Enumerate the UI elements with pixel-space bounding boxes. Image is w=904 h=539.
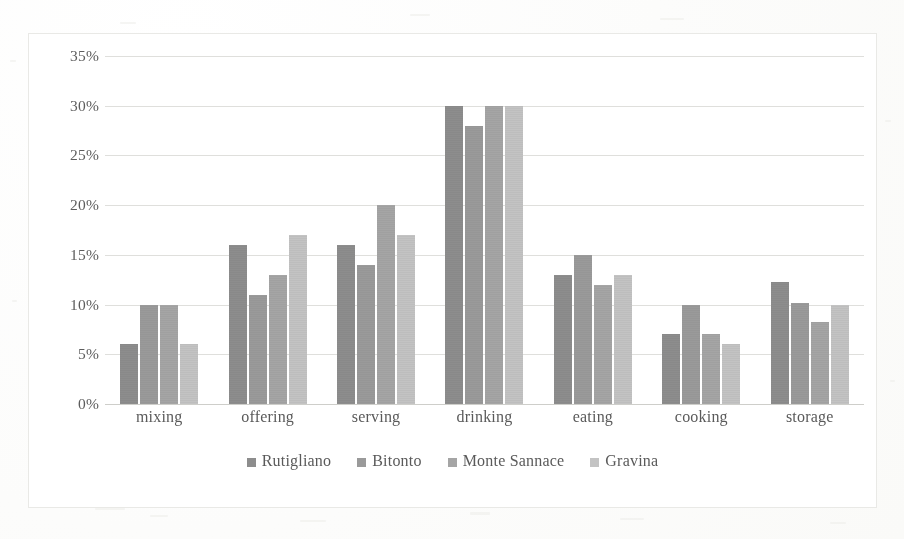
- legend-item[interactable]: Gravina: [590, 452, 658, 470]
- bar-group: [430, 56, 538, 404]
- x-axis-label: storage: [756, 408, 864, 438]
- bar-group: [213, 56, 321, 404]
- chart-frame: 0%5%10%15%20%25%30%35% mixingofferingser…: [28, 33, 877, 508]
- bar[interactable]: [180, 344, 198, 404]
- bar[interactable]: [269, 275, 287, 404]
- bar-group: [322, 56, 430, 404]
- bar[interactable]: [160, 305, 178, 404]
- scan-artifact: [10, 60, 16, 62]
- x-axis-label: offering: [213, 408, 321, 438]
- y-axis: 0%5%10%15%20%25%30%35%: [37, 56, 99, 404]
- bar[interactable]: [722, 344, 740, 404]
- bar[interactable]: [377, 205, 395, 404]
- bar[interactable]: [574, 255, 592, 404]
- scan-artifact: [470, 512, 490, 515]
- scan-artifact: [830, 522, 846, 524]
- scan-artifact: [410, 14, 430, 16]
- bar-group: [756, 56, 864, 404]
- scan-artifact: [300, 520, 326, 522]
- bar[interactable]: [702, 334, 720, 404]
- legend-swatch-icon: [247, 458, 256, 467]
- bar[interactable]: [682, 305, 700, 404]
- scan-artifact: [890, 380, 895, 382]
- bar-group: [539, 56, 647, 404]
- legend-swatch-icon: [448, 458, 457, 467]
- chart-legend: RutiglianoBitontoMonte SannaceGravina: [29, 452, 876, 470]
- bar[interactable]: [289, 235, 307, 404]
- y-axis-tick: 5%: [78, 345, 99, 363]
- bar[interactable]: [249, 295, 267, 404]
- axis-baseline: [105, 404, 864, 405]
- bar[interactable]: [140, 305, 158, 404]
- scan-artifact: [12, 300, 17, 302]
- y-axis-tick: 35%: [70, 47, 99, 65]
- bar[interactable]: [397, 235, 415, 404]
- bar[interactable]: [505, 106, 523, 404]
- legend-swatch-icon: [357, 458, 366, 467]
- bar[interactable]: [120, 344, 138, 404]
- bar[interactable]: [445, 106, 463, 404]
- scan-artifact: [150, 515, 168, 517]
- bar[interactable]: [485, 106, 503, 404]
- bar[interactable]: [811, 322, 829, 404]
- scan-artifact: [120, 22, 136, 24]
- legend-item[interactable]: Bitonto: [357, 452, 421, 470]
- legend-label: Rutigliano: [262, 452, 332, 470]
- scan-artifact: [885, 120, 891, 122]
- bar[interactable]: [229, 245, 247, 404]
- bar[interactable]: [662, 334, 680, 404]
- legend-label: Monte Sannace: [463, 452, 565, 470]
- y-axis-tick: 0%: [78, 395, 99, 413]
- x-axis: mixingofferingservingdrinkingeatingcooki…: [105, 408, 864, 438]
- plot-area: [105, 56, 864, 404]
- bar-group: [647, 56, 755, 404]
- bar-groups: [105, 56, 864, 404]
- bar[interactable]: [791, 303, 809, 404]
- bar[interactable]: [614, 275, 632, 404]
- legend-item[interactable]: Rutigliano: [247, 452, 332, 470]
- legend-label: Gravina: [605, 452, 658, 470]
- bar[interactable]: [771, 282, 789, 404]
- x-axis-label: mixing: [105, 408, 213, 438]
- bar[interactable]: [357, 265, 375, 404]
- scan-artifact: [660, 18, 684, 20]
- scan-artifact: [95, 508, 125, 510]
- scan-artifact: [620, 518, 644, 520]
- y-axis-tick: 10%: [70, 296, 99, 314]
- x-axis-label: eating: [539, 408, 647, 438]
- y-axis-tick: 15%: [70, 246, 99, 264]
- plot-wrapper: 0%5%10%15%20%25%30%35% mixingofferingser…: [29, 34, 876, 507]
- legend-swatch-icon: [590, 458, 599, 467]
- bar[interactable]: [831, 305, 849, 404]
- legend-item[interactable]: Monte Sannace: [448, 452, 565, 470]
- bar-group: [105, 56, 213, 404]
- x-axis-label: serving: [322, 408, 430, 438]
- x-axis-label: drinking: [430, 408, 538, 438]
- y-axis-tick: 30%: [70, 97, 99, 115]
- bar[interactable]: [465, 126, 483, 404]
- bar[interactable]: [337, 245, 355, 404]
- y-axis-tick: 20%: [70, 196, 99, 214]
- legend-label: Bitonto: [372, 452, 421, 470]
- y-axis-tick: 25%: [70, 146, 99, 164]
- bar[interactable]: [594, 285, 612, 404]
- bar[interactable]: [554, 275, 572, 404]
- x-axis-label: cooking: [647, 408, 755, 438]
